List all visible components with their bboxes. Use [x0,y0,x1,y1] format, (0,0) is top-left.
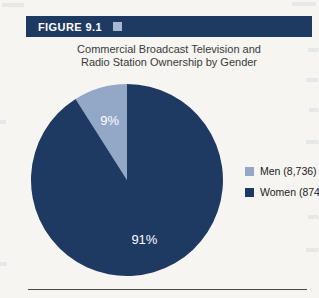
figure-bottom-rule [28,289,307,290]
legend-item-women: Women (874) [245,186,319,198]
pie-value-label-men: 9% [100,113,119,128]
legend-swatch-men [245,167,254,176]
chart-legend: Men (8,736) Women (874) [245,165,319,207]
scanned-figure-page: FIGURE 9.1 Commercial Broadcast Televisi… [0,0,319,298]
legend-swatch-women [245,188,254,197]
legend-item-men: Men (8,736) [245,165,319,177]
legend-label-men: Men (8,736) [260,165,317,177]
legend-label-women: Women (874) [260,186,319,198]
pie-chart: 9%91% [0,0,319,298]
pie-value-label-women: 91% [131,232,157,247]
